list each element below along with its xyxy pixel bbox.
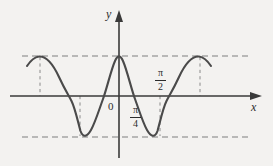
fraction-denominator: 2 — [156, 82, 165, 93]
x-axis-arrowhead — [250, 92, 262, 100]
cosine-wave-figure: y x 0 π 4 π 2 — [0, 0, 273, 166]
origin-label: 0 — [108, 101, 114, 112]
fraction-denominator: 4 — [131, 119, 140, 130]
fraction-pi-over-2: π 2 — [155, 68, 166, 92]
tick-label-pi-over-4: π 4 — [130, 100, 141, 129]
y-axis-label: y — [106, 8, 111, 20]
fraction-pi-over-4: π 4 — [130, 105, 141, 129]
plot-canvas — [0, 0, 273, 166]
y-axis-arrowhead — [115, 10, 123, 22]
fraction-numerator: π — [131, 105, 140, 116]
tick-label-pi-over-2: π 2 — [155, 63, 166, 92]
x-axis-label: x — [251, 101, 256, 113]
fraction-numerator: π — [156, 68, 165, 79]
